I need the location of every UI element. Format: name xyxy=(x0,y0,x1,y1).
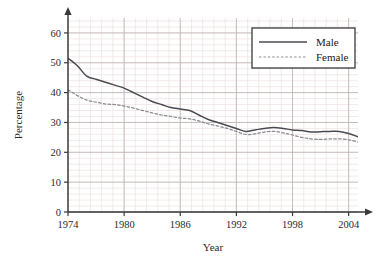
x-axis-title: Year xyxy=(203,241,224,253)
y-tick-label: 10 xyxy=(51,177,62,188)
legend-label-female: Female xyxy=(316,51,348,63)
y-tick-label: 20 xyxy=(51,147,62,158)
x-tick-label: 1992 xyxy=(226,219,247,230)
x-tick-label: 1974 xyxy=(58,219,80,230)
line-chart: 0102030405060 197419801986199219982004 P… xyxy=(0,0,376,256)
y-axis-arrow-icon xyxy=(64,7,71,15)
chart-legend: Male Female xyxy=(252,28,355,68)
x-tick-label: 2004 xyxy=(338,219,360,230)
y-axis-title: Percentage xyxy=(12,91,24,139)
y-axis-tick-labels: 0102030405060 xyxy=(51,28,62,218)
y-tick-label: 30 xyxy=(51,117,62,128)
y-tick-label: 40 xyxy=(51,87,62,98)
chart-canvas: 0102030405060 197419801986199219982004 P… xyxy=(0,0,376,256)
y-tick-label: 60 xyxy=(51,28,62,39)
x-tick-label: 1998 xyxy=(282,219,303,230)
x-tick-label: 1980 xyxy=(114,219,135,230)
y-tick-label: 50 xyxy=(51,57,62,68)
x-axis-arrow-icon xyxy=(365,208,373,215)
x-tick-label: 1986 xyxy=(170,219,191,230)
x-axis-tick-labels: 197419801986199219982004 xyxy=(58,219,360,230)
y-tick-label: 0 xyxy=(56,207,61,218)
legend-label-male: Male xyxy=(316,36,339,48)
